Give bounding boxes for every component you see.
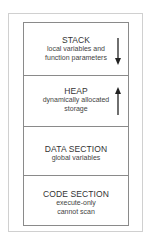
- section-desc: execute-only: [24, 199, 128, 208]
- section-desc: storage: [24, 105, 128, 114]
- arrow-down-icon: [114, 38, 122, 65]
- heap-section: HEAP dynamically allocated storage: [24, 76, 128, 127]
- section-desc: global variables: [24, 154, 128, 163]
- section-title: STACK: [24, 35, 128, 45]
- section-desc: local variables and: [24, 45, 128, 54]
- memory-layout-box: STACK local variables and function param…: [23, 22, 129, 226]
- code-section: CODE SECTION execute-only cannot scan: [24, 176, 128, 225]
- section-title: CODE SECTION: [24, 189, 128, 199]
- section-title: HEAP: [24, 86, 128, 96]
- section-title: DATA SECTION: [24, 144, 128, 154]
- arrow-up-icon: [114, 87, 122, 115]
- section-desc: dynamically allocated: [24, 96, 128, 105]
- section-desc: function parameters: [24, 54, 128, 63]
- stack-section: STACK local variables and function param…: [24, 23, 128, 76]
- data-section: DATA SECTION global variables: [24, 127, 128, 176]
- section-desc: cannot scan: [24, 208, 128, 217]
